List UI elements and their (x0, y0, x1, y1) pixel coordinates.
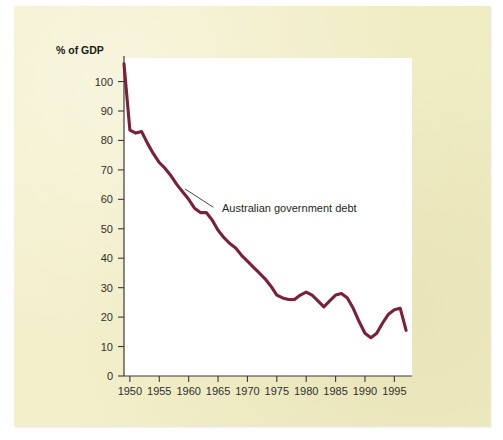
y-tick-label: 100 (95, 76, 113, 88)
y-tick-label: 40 (101, 252, 113, 264)
data-series-group (124, 64, 406, 338)
x-tick-label: 1980 (294, 385, 318, 397)
y-tick-label: 70 (101, 164, 113, 176)
x-tick-label: 1970 (235, 385, 259, 397)
line-chart: 0102030405060708090100 19501955196019651… (0, 0, 503, 440)
figure-root: 0102030405060708090100 19501955196019651… (0, 0, 503, 440)
x-tick-label: 1985 (323, 385, 347, 397)
x-tick-label: 1955 (147, 385, 171, 397)
y-axis: 0102030405060708090100 (95, 56, 124, 382)
y-tick-label: 60 (101, 193, 113, 205)
x-tick-label: 1990 (353, 385, 377, 397)
x-tick-label: 1975 (265, 385, 289, 397)
y-tick-label: 80 (101, 134, 113, 146)
annotation-group: Australian government debt (185, 189, 356, 214)
data-series-line (124, 64, 406, 338)
y-tick-label: 30 (101, 282, 113, 294)
x-axis: 1950195519601965197019751980198519901995 (118, 376, 412, 397)
y-tick-label: 10 (101, 341, 113, 353)
y-tick-label: 90 (101, 105, 113, 117)
y-axis-title: % of GDP (56, 44, 104, 56)
series-annotation-label: Australian government debt (222, 202, 357, 214)
y-tick-label: 50 (101, 223, 113, 235)
y-tick-label: 20 (101, 311, 113, 323)
x-tick-label: 1995 (382, 385, 406, 397)
x-tick-label: 1950 (118, 385, 142, 397)
y-tick-label: 0 (107, 370, 113, 382)
x-tick-label: 1960 (176, 385, 200, 397)
x-tick-label: 1965 (206, 385, 230, 397)
